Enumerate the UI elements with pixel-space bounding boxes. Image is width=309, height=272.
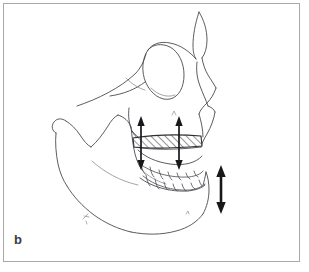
figure-panel: b xyxy=(0,0,309,272)
pencil-marks-group xyxy=(83,111,189,224)
maxillary-tooth-2 xyxy=(150,167,154,177)
pencil-mark-mental xyxy=(186,211,189,214)
anterior-nasal-spine xyxy=(208,106,215,112)
midface-profile-group xyxy=(197,58,216,147)
cranial-vault-outline xyxy=(193,12,199,59)
maxillary-teeth-occlusal-line xyxy=(140,164,203,177)
anterior-maxilla-surface xyxy=(199,88,216,114)
posterior-ramus-border xyxy=(56,133,67,186)
condylar-neck xyxy=(66,121,91,147)
maxillary-tooth-6 xyxy=(186,173,190,179)
mandibular-inferior-border xyxy=(131,214,203,234)
sigmoid-notch xyxy=(91,115,118,147)
panel-label: b xyxy=(14,233,22,246)
orbit-outline xyxy=(143,45,184,100)
frontal-bone-profile xyxy=(199,12,207,58)
mandibular-tooth-7 xyxy=(199,180,202,186)
pencil-mark-maxilla xyxy=(172,111,176,115)
mandibular-condyle xyxy=(52,119,66,133)
arrow-head-up xyxy=(216,165,225,177)
pencil-mark-mandible-body xyxy=(83,214,89,224)
maxillary-outer-contour xyxy=(199,114,203,137)
zygomatic-arch xyxy=(77,54,146,106)
mandibular-tooth-6 xyxy=(191,183,195,189)
nasal-bone-dorsum xyxy=(202,58,216,88)
mylohyoid-ridge xyxy=(92,161,138,185)
piriform-aperture-rim xyxy=(197,62,208,106)
arrow-head-down xyxy=(216,202,225,214)
symphysis-profile xyxy=(203,172,209,214)
osteotomy-band-group xyxy=(133,135,202,148)
maxillary-alveolar-process xyxy=(138,150,202,165)
pterygomaxillary-region xyxy=(129,108,138,138)
arrow-head-up xyxy=(175,116,182,126)
skull-tracing-illustration xyxy=(0,0,309,272)
mandible-group xyxy=(52,115,209,234)
maxillary-anterior-border xyxy=(201,112,215,147)
mandible-autorotation-arrow xyxy=(216,165,225,214)
dentition-group xyxy=(140,163,205,191)
le-fort-i-osteotomy-segment xyxy=(133,135,202,148)
gonial-angle xyxy=(67,186,131,232)
cranium-outline-group xyxy=(77,12,207,106)
maxillary-tooth-5 xyxy=(177,173,181,180)
arrow-head-down xyxy=(137,160,144,170)
mandibular-alveolar-contour xyxy=(203,172,206,185)
arrow-head-up xyxy=(137,116,144,126)
